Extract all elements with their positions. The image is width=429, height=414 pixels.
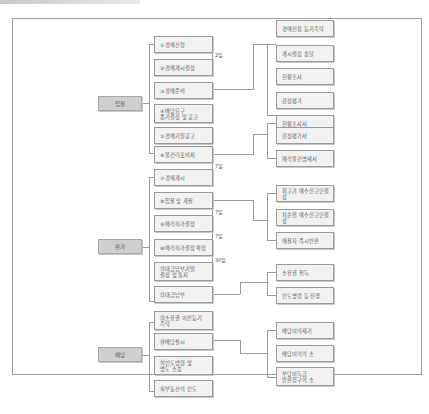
connector <box>253 134 268 135</box>
interval-label: 7일 <box>215 232 223 239</box>
step-box: ①경매신청 <box>154 36 213 53</box>
connector <box>253 44 254 89</box>
connector <box>267 115 276 116</box>
connector <box>267 377 276 378</box>
connector <box>149 322 150 391</box>
detail-box: 경매신청 등기촉탁 <box>276 20 334 37</box>
connector <box>253 134 254 154</box>
detail-box: 부당이득금 반환청구의 소 <box>276 367 334 386</box>
step-box: ⑧입찰 및 개찰 <box>154 192 213 209</box>
connector <box>240 340 241 353</box>
connector <box>267 330 276 331</box>
step-box: ⑥물건리포비치 <box>154 146 213 163</box>
step-box: ③경매준비 <box>154 82 213 99</box>
step-box: ⑭배당실시 <box>154 333 213 350</box>
connector <box>212 200 254 201</box>
step-box: ⑤경매기일공고 <box>154 127 213 144</box>
step-box: ⑬소유권 이전등기 촉탁 <box>154 311 213 330</box>
category-conversion: 환가 <box>98 239 142 254</box>
step-box: ⑪대금납부기일 결정 및 통지 <box>154 262 213 281</box>
step-box: ②경매개시결정 <box>154 59 213 76</box>
connector <box>267 123 268 158</box>
detail-box: 매찰자 즉시반환 <box>276 232 334 249</box>
connector <box>267 158 276 159</box>
diagram-frame <box>12 18 422 375</box>
step-box: ⑦경매개시 <box>154 169 213 186</box>
connector <box>149 177 150 301</box>
step-box: ⑨매각허가결정 <box>154 215 213 232</box>
detail-box: 소유권 취득 <box>276 264 334 281</box>
step-box: ⑩매각허가결정 확정 <box>154 239 213 256</box>
connector <box>267 272 276 273</box>
connector <box>240 353 268 354</box>
connector <box>267 123 276 124</box>
connector <box>240 282 241 294</box>
connector <box>267 44 276 45</box>
connector <box>267 272 268 295</box>
detail-box: 현황조사 <box>276 68 334 85</box>
step-box: ⑮인도명령 및 명도 소송 <box>154 356 213 375</box>
connector <box>267 193 276 194</box>
step-box: ⑫대금납부 <box>154 286 213 303</box>
detail-box: 인도명령 등 진행 <box>276 287 334 304</box>
detail-box: 배당이의의 소 <box>276 345 334 362</box>
interval-label: 7일 <box>215 162 223 169</box>
interval-label: 2일 <box>215 51 223 58</box>
connector <box>267 330 268 377</box>
connector <box>267 193 268 240</box>
connector <box>240 282 268 283</box>
connector <box>267 44 268 115</box>
connector <box>267 240 276 241</box>
category-distribution: 배당 <box>98 347 142 362</box>
connector <box>253 44 268 45</box>
step-box: ⑯부동산의 인도 <box>154 380 213 397</box>
category-bidding: 입찰 <box>98 96 142 111</box>
detail-box: 감정평가 <box>276 92 334 109</box>
detail-box: 최고가 매수신고인결정 <box>276 185 334 202</box>
connector <box>253 220 268 221</box>
connector <box>212 154 254 155</box>
interval-label: 7일 <box>215 208 223 215</box>
connector <box>212 294 240 295</box>
detail-box: 개시결정 송달 <box>276 45 334 62</box>
detail-box: 매각물건명세서 <box>276 150 334 167</box>
connector <box>267 295 276 296</box>
detail-box: 차순위 매수신고인결정 <box>276 209 334 226</box>
step-box: ④배당요구 종기결정 및 공고 <box>154 104 213 123</box>
detail-box: 배당이의제기 <box>276 322 334 339</box>
connector <box>212 340 240 341</box>
connector <box>149 44 150 153</box>
connector <box>212 89 254 90</box>
detail-box: 감정평가서 <box>276 127 334 144</box>
interval-label: 30일 <box>215 256 226 263</box>
top-decoration <box>0 0 140 4</box>
connector <box>253 200 254 220</box>
